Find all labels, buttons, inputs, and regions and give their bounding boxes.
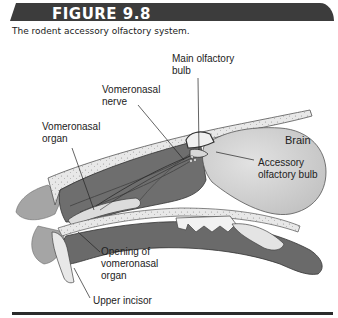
label-line: nerve <box>102 96 160 108</box>
label-line: Opening of <box>101 246 158 258</box>
label-upper-incisor: Upper incisor <box>93 295 152 307</box>
label-opening-of-vomeronasal-organ: Opening of vomeronasal organ <box>101 246 158 282</box>
label-line: Vomeronasal <box>102 84 160 96</box>
label-line: vomeronasal <box>101 258 158 270</box>
bottom-rule <box>12 312 333 315</box>
label-accessory-olfactory-bulb: Accessory olfactory bulb <box>258 157 317 181</box>
label-line: Accessory <box>258 157 317 169</box>
label-vomeronasal-nerve: Vomeronasal nerve <box>102 84 160 108</box>
figure-number: FIGURE 9.8 <box>52 5 151 23</box>
label-line: Vomeronasal <box>42 121 100 133</box>
label-line: organ <box>42 133 100 145</box>
figure-header-bar: FIGURE 9.8 <box>10 3 334 21</box>
label-line: Main olfactory <box>172 53 234 65</box>
label-vomeronasal-organ: Vomeronasal organ <box>42 121 100 145</box>
label-line: bulb <box>172 65 234 77</box>
label-main-olfactory-bulb: Main olfactory bulb <box>172 53 234 77</box>
figure-caption: The rodent accessory olfactory system. <box>12 26 190 36</box>
label-line: organ <box>101 270 158 282</box>
label-brain: Brain <box>285 134 311 146</box>
label-line: olfactory bulb <box>258 169 317 181</box>
